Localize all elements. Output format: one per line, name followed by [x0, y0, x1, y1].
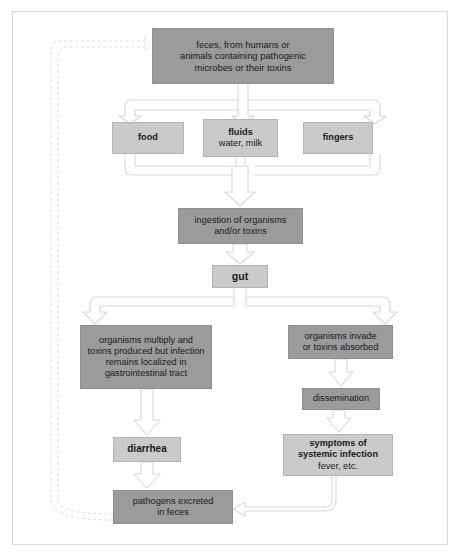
- node-gut-label: gut: [232, 270, 248, 283]
- node-systemic-symptoms[interactable]: symptoms of systemic infection fever, et…: [283, 434, 393, 476]
- node-symptoms-line1: symptoms of: [309, 438, 366, 449]
- node-fluids-label: fluids: [228, 127, 253, 138]
- node-feces-line1: feces, from humans or: [196, 39, 289, 50]
- node-localized-line1: organisms multiply and: [99, 335, 193, 346]
- node-symptoms-line2: systemic infection: [298, 449, 378, 460]
- node-ingestion-line2: and/or toxins: [214, 226, 267, 237]
- node-invade[interactable]: organisms invade or toxins absorbed: [288, 325, 393, 359]
- node-diarrhea[interactable]: diarrhea: [113, 437, 181, 462]
- node-localized-line3: remains localized in: [106, 357, 187, 368]
- node-fluids[interactable]: fluids water, milk: [203, 119, 278, 157]
- node-food-label: food: [138, 132, 158, 143]
- node-dissemination[interactable]: dissemination: [302, 388, 380, 410]
- node-feces-line2: animals containing pathogenic: [180, 50, 306, 61]
- node-localized-infection[interactable]: organisms multiply and toxins produced b…: [80, 325, 212, 389]
- node-invade-line2: or toxins absorbed: [303, 342, 379, 353]
- node-fingers-label: fingers: [323, 132, 354, 143]
- node-symptoms-line3: fever, etc.: [318, 461, 358, 472]
- node-excreted-line1: pathogens excreted: [133, 496, 214, 507]
- node-diarrhea-label: diarrhea: [127, 443, 166, 455]
- node-localized-line4: gastrointestinal tract: [105, 368, 187, 379]
- node-ingestion-line1: ingestion of organisms: [195, 215, 287, 226]
- node-ingestion[interactable]: ingestion of organisms and/or toxins: [178, 208, 303, 244]
- node-pathogens-excreted[interactable]: pathogens excreted in feces: [113, 490, 233, 524]
- node-food[interactable]: food: [112, 122, 184, 154]
- node-invade-line1: organisms invade: [304, 331, 376, 342]
- node-gut[interactable]: gut: [212, 265, 268, 288]
- node-excreted-line2: in feces: [157, 507, 189, 518]
- node-dissemination-label: dissemination: [313, 393, 369, 404]
- node-localized-line2: toxins produced but infection: [88, 346, 205, 357]
- node-fluids-sublabel: water, milk: [219, 138, 262, 149]
- node-feces-line3: microbes or their toxins: [195, 62, 292, 73]
- node-fingers[interactable]: fingers: [303, 122, 373, 154]
- node-feces[interactable]: feces, from humans or animals containing…: [152, 28, 334, 84]
